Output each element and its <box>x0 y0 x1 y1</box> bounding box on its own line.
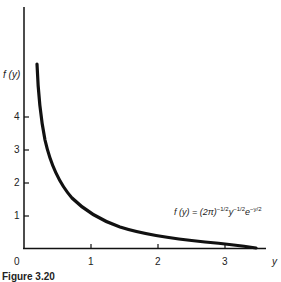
formula-annotation: f (y) = (2π)−1/2y−1/2e−y/2 <box>174 206 262 217</box>
y-tick-label-2: 2 <box>14 178 20 188</box>
origin-label: 0 <box>14 257 20 267</box>
formula-exp-1: −1/2 <box>217 206 229 212</box>
y-axis-label: f (y) <box>3 70 20 80</box>
x-axis-label: y <box>272 257 277 267</box>
y-tick-label-1: 1 <box>14 211 20 221</box>
figure-caption: Figure 3.20 <box>2 271 55 282</box>
y-tick-label-4: 4 <box>14 112 20 122</box>
x-tick-label-2: 2 <box>155 257 161 267</box>
formula-exp-2: −1/2 <box>233 206 245 212</box>
y-tick-label-3: 3 <box>14 145 20 155</box>
formula-lhs: f (y) = (2π) <box>174 207 217 217</box>
x-tick-label-1: 1 <box>88 257 94 267</box>
formula-exp-3: −y/2 <box>250 206 262 212</box>
x-tick-label-3: 3 <box>222 257 228 267</box>
density-curve <box>37 64 256 248</box>
